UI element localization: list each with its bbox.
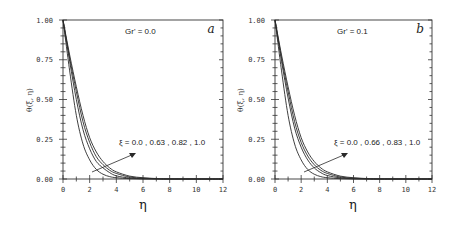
axes: 0246810120.000.250.500.751.00	[36, 17, 227, 195]
x-tick-label: 8	[168, 186, 172, 194]
y-tick-label: 1.00	[248, 17, 265, 25]
parameter-label: Gr' = 0.0	[125, 27, 156, 36]
curve-0.0	[275, 20, 432, 179]
x-tick-label: 2	[88, 186, 92, 194]
x-tick-label: 10	[402, 186, 410, 194]
x-tick-label: 0	[61, 186, 65, 194]
x-tick-label: 4	[114, 186, 118, 194]
axes: 0246810120.000.250.500.751.00	[248, 17, 436, 195]
x-tick-label: 12	[219, 186, 227, 194]
x-tick-label: 10	[192, 186, 200, 194]
x-tick-label: 6	[141, 186, 145, 194]
y-tick-label: 0.75	[248, 56, 265, 64]
curves	[63, 20, 223, 179]
y-tick-label: 0.75	[36, 56, 53, 64]
figure: θ(ξ, η) η Gr' = 0.0 a ξ = 0.0 , 0.63 , 0…	[0, 0, 459, 240]
y-tick-label: 1.00	[36, 17, 53, 25]
panel-b: θ(ξ, η) η Gr' = 0.1 b ξ = 0.0 , 0.66 , 0…	[236, 17, 436, 213]
x-tick-label: 8	[378, 186, 382, 194]
panel-tag: b	[416, 22, 424, 36]
y-axis-label: θ(ξ, η)	[25, 88, 34, 112]
y-tick-label: 0.00	[36, 176, 53, 184]
x-tick-label: 4	[325, 186, 329, 194]
curve-0.0	[63, 20, 223, 179]
x-tick-label: 12	[428, 186, 436, 194]
y-tick-label: 0.50	[36, 96, 53, 104]
y-tick-label: 0.25	[248, 136, 265, 144]
x-tick-label: 2	[299, 186, 303, 194]
curve-annotation: ξ = 0.0 , 0.66 , 0.83 , 1.0	[334, 138, 421, 147]
panel-tag: a	[207, 22, 214, 36]
x-tick-label: 0	[273, 186, 277, 194]
x-axis-label: η	[139, 197, 147, 212]
parameter-label: Gr' = 0.1	[337, 27, 368, 36]
x-axis-label: η	[349, 197, 357, 212]
curve-annotation: ξ = 0.0 , 0.63 , 0.82 , 1.0	[119, 138, 206, 147]
y-axis-label: θ(ξ, η)	[236, 88, 245, 112]
y-tick-label: 0.25	[36, 136, 53, 144]
y-tick-label: 0.50	[248, 96, 265, 104]
y-tick-label: 0.00	[248, 176, 265, 184]
panel-a: θ(ξ, η) η Gr' = 0.0 a ξ = 0.0 , 0.63 , 0…	[25, 17, 227, 213]
curves	[275, 20, 432, 179]
arrow-icon	[304, 153, 348, 172]
x-tick-label: 6	[351, 186, 355, 194]
